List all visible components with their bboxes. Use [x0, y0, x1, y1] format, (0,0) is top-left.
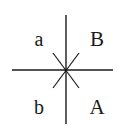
intersecting-lines-diagram: a B b A: [0, 0, 120, 135]
intersection-point: [65, 69, 68, 72]
label-top-right: B: [90, 29, 104, 50]
label-bottom-left: b: [34, 97, 44, 117]
label-bottom-right: A: [89, 97, 104, 118]
label-top-left: a: [35, 29, 44, 49]
